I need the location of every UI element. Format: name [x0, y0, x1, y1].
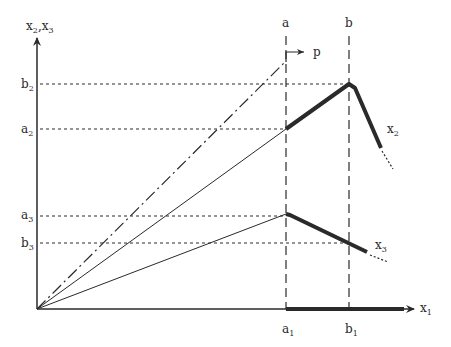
- y-tick-b3: b3: [21, 236, 34, 252]
- x3-bold-segment: [286, 214, 367, 252]
- vertical-label-b: b: [345, 16, 353, 30]
- x2-bold-segment: [286, 84, 381, 148]
- p-label: p: [313, 45, 321, 59]
- x-tick-b1: b1: [345, 322, 358, 338]
- p-arrow: [286, 52, 304, 62]
- y-tick-b2: b2: [21, 77, 34, 93]
- y-tick-a2: a2: [21, 122, 33, 138]
- x-axis-label: x1: [420, 301, 432, 317]
- y-axis-label: x2,x3: [26, 19, 54, 35]
- dash-dot-ray: [37, 62, 285, 309]
- curve-label-x2: x2: [387, 122, 399, 138]
- x2-thin-segment: [37, 129, 286, 309]
- curve-label-x3: x3: [375, 238, 387, 254]
- diagram-canvas: x2,x3 x1 a b p b2 a2 a3 b3 a1 b1 x2 x3: [0, 0, 451, 347]
- x3-dotted-extension: [370, 255, 388, 262]
- x3-thin-segment: [37, 214, 286, 309]
- x-tick-a1: a1: [282, 322, 294, 338]
- x2-dotted-extension: [382, 151, 393, 169]
- y-tick-a3: a3: [21, 208, 33, 224]
- vertical-label-a: a: [282, 16, 289, 30]
